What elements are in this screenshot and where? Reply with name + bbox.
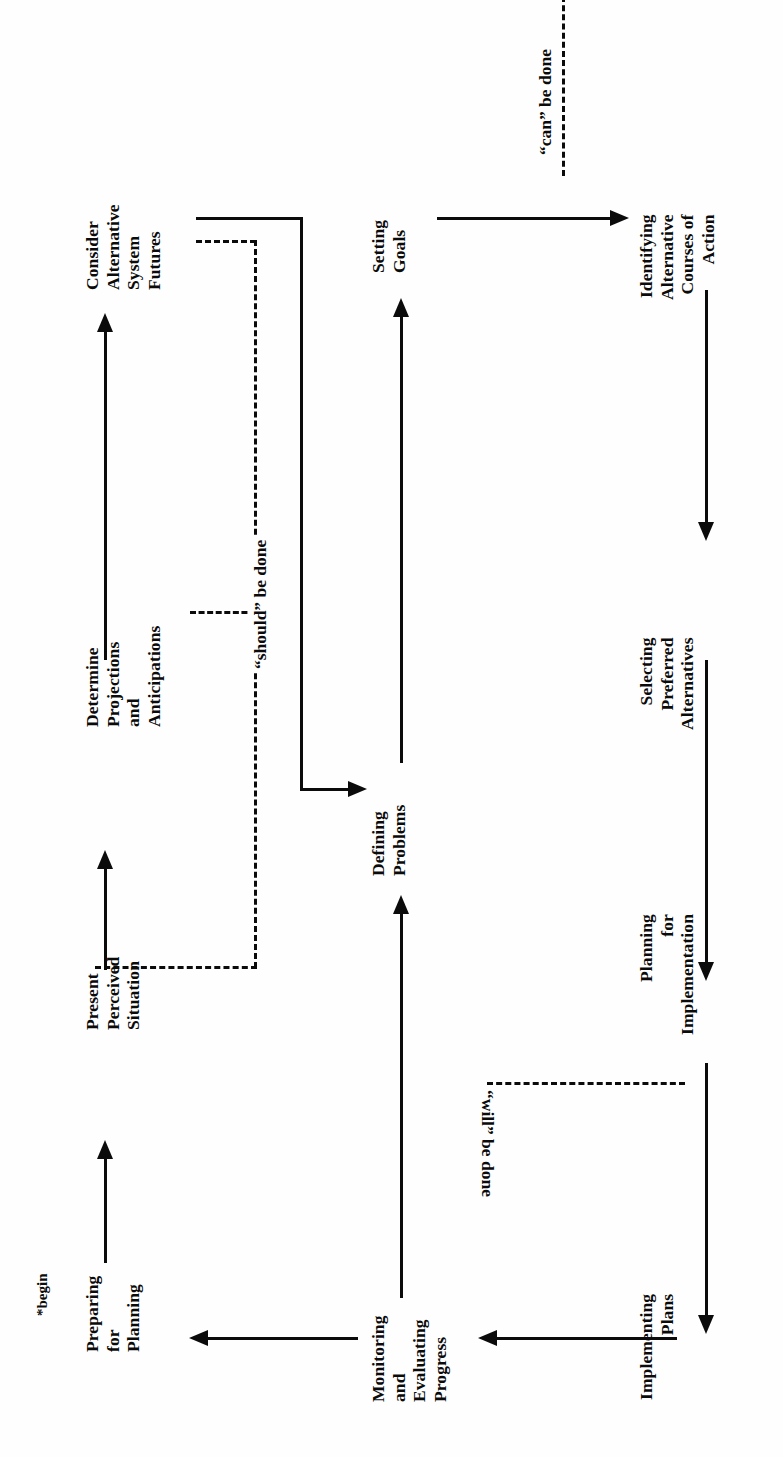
node-line: Identifying <box>636 214 657 300</box>
node-planning-for-implementation: Planning for Implementation <box>636 914 698 1035</box>
arrowhead-determine-to-consider <box>97 313 113 332</box>
connector-identifying-to-selecting <box>705 290 708 530</box>
node-identifying-alternative-courses-of-action: Identifying Alternative Courses of Actio… <box>636 214 719 300</box>
node-line: Problems <box>389 805 410 876</box>
connector-monitoring-to-defining <box>400 905 403 1298</box>
arrowhead-selecting-to-planning <box>698 962 714 981</box>
connector-determine-to-consider <box>104 323 107 660</box>
connector-planning-to-implementing <box>705 1063 708 1323</box>
boundary-line-can-be-done <box>562 0 565 176</box>
node-consider-alternative-system-futures: Consider Alternative System Futures <box>82 204 165 290</box>
node-line: Selecting <box>636 637 657 730</box>
node-line: Anticipations <box>144 626 165 727</box>
node-line: Progress <box>430 1315 451 1402</box>
node-line: Action <box>698 214 719 300</box>
node-line: Implementation <box>677 914 698 1035</box>
boundary-line-should-be-done-lower <box>95 966 257 969</box>
node-line: Preparing <box>82 1276 103 1352</box>
connector-monitoring-to-preparing <box>208 1337 358 1340</box>
node-implementing-plans: Implementing Plans <box>636 1294 677 1400</box>
arrowhead-planning-to-implementing <box>698 1315 714 1334</box>
diagram-canvas: *begin Preparing for Planning Present Pe… <box>0 0 783 1457</box>
node-line: and <box>123 626 144 727</box>
boundary-label-will-be-done: “will” be done <box>477 1090 498 1197</box>
node-line: Planning <box>636 914 657 1035</box>
node-line: Defining <box>368 805 389 876</box>
connector-setting-goals-to-identifying <box>437 217 617 220</box>
boundary-line-will-be-done <box>487 1082 685 1085</box>
connector-consider-bracket-vertical <box>300 217 303 790</box>
node-line: Alternatives <box>677 637 698 730</box>
arrowhead-consider-to-defining <box>348 781 367 797</box>
node-line: Evaluating <box>409 1315 430 1402</box>
boundary-line-should-be-done-branch <box>190 611 256 614</box>
node-line: for <box>103 1276 124 1352</box>
connector-selecting-to-planning <box>705 660 708 970</box>
arrowhead-setting-goals-to-identifying <box>610 210 629 226</box>
boundary-label-can-be-done: “can” be done <box>535 49 556 155</box>
arrowhead-present-to-determine <box>97 850 113 869</box>
node-defining-problems: Defining Problems <box>368 805 409 876</box>
arrowhead-defining-to-setting-goals <box>393 298 409 317</box>
node-line: for <box>657 914 678 1035</box>
node-line: and <box>389 1315 410 1402</box>
boundary-line-should-be-done-upper <box>196 240 256 243</box>
node-line: Futures <box>144 204 165 290</box>
connector-implementing-to-monitoring <box>497 1337 677 1340</box>
node-line: Setting <box>368 220 389 273</box>
node-line: Consider <box>82 204 103 290</box>
node-determine-projections-and-anticipations: Determine Projections and Anticipations <box>82 626 165 727</box>
connector-preparing-to-present <box>104 1150 107 1263</box>
node-selecting-preferred-alternatives: Selecting Preferred Alternatives <box>636 637 698 730</box>
node-line: Goals <box>389 220 410 273</box>
arrowhead-monitoring-to-defining <box>393 895 409 914</box>
node-line: Plans <box>657 1294 678 1400</box>
connector-consider-bracket-top <box>196 217 302 220</box>
node-preparing-for-planning: Preparing for Planning <box>82 1276 144 1352</box>
node-line: Alternative <box>103 204 124 290</box>
node-line: Alternative <box>657 214 678 300</box>
node-line: Preferred <box>657 637 678 730</box>
begin-marker: *begin <box>34 1273 51 1316</box>
node-line: Planning <box>123 1276 144 1352</box>
node-line: System <box>123 204 144 290</box>
arrowhead-identifying-to-selecting <box>698 522 714 541</box>
arrowhead-monitoring-to-preparing <box>189 1330 208 1346</box>
arrowhead-preparing-to-present <box>97 1140 113 1159</box>
arrowhead-implementing-to-monitoring <box>478 1330 497 1346</box>
node-line: Courses of <box>677 214 698 300</box>
connector-defining-to-setting-goals <box>400 308 403 763</box>
node-line: Monitoring <box>368 1315 389 1402</box>
node-monitoring-and-evaluating-progress: Monitoring and Evaluating Progress <box>368 1315 451 1402</box>
connector-present-to-determine <box>104 860 107 970</box>
node-setting-goals: Setting Goals <box>368 220 409 273</box>
connector-consider-bracket-bottom <box>300 788 352 791</box>
node-line: Determine <box>82 626 103 727</box>
boundary-label-should-be-done: “should” be done <box>248 537 273 672</box>
node-line: Implementing <box>636 1294 657 1400</box>
